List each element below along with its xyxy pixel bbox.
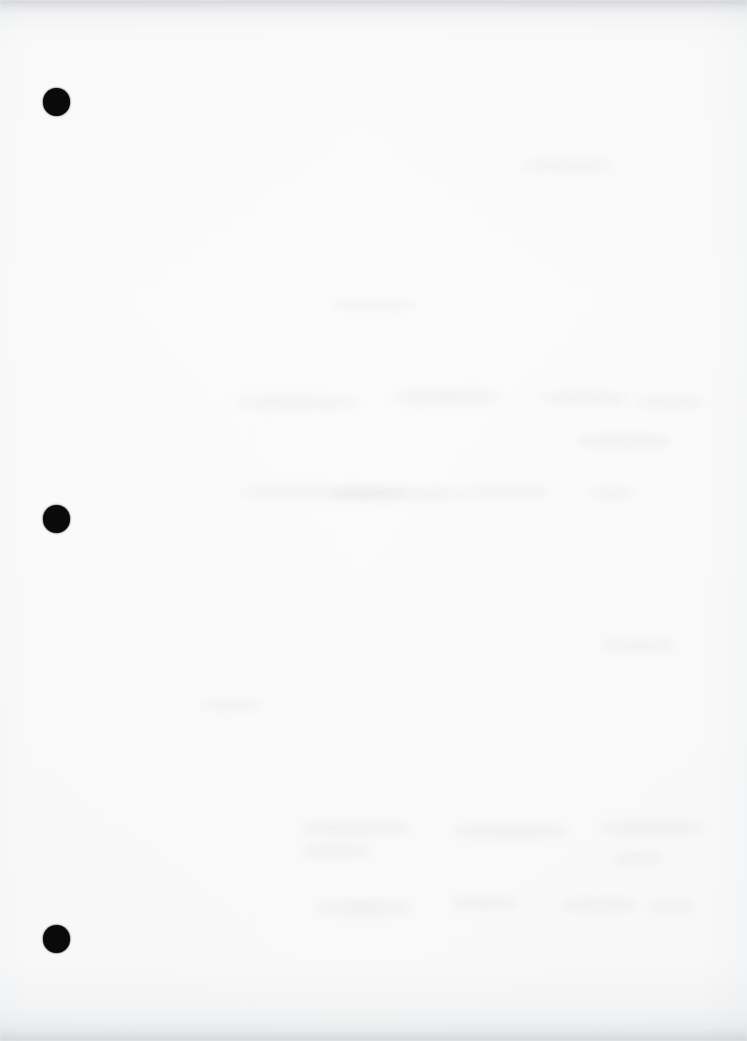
ghost-smudge [452, 824, 570, 839]
bottom-edge-scan-shadow [0, 1007, 747, 1041]
bottom-punch-hole [43, 925, 71, 953]
top-edge-scan-shadow [0, 0, 747, 26]
middle-punch-hole [43, 505, 71, 533]
ghost-smudge [236, 396, 360, 409]
ghost-smudge [316, 900, 412, 916]
ghost-smudge [330, 300, 416, 310]
scanned-page [0, 0, 747, 1041]
ghost-smudge [200, 700, 264, 710]
ghost-smudge [636, 396, 704, 408]
ghost-smudge [330, 488, 472, 500]
ghost-smudge [600, 820, 704, 836]
ghost-smudge [300, 844, 372, 858]
ghost-smudge [238, 486, 406, 499]
ghost-smudge [600, 640, 676, 651]
ghost-smudge [612, 852, 664, 865]
ghost-smudge [452, 896, 518, 910]
ghost-smudge [300, 820, 410, 836]
ghost-smudge [520, 160, 616, 171]
ghost-smudge [576, 434, 672, 448]
ghost-smudge [560, 898, 638, 912]
ghost-smudge [392, 390, 500, 405]
top-punch-hole [43, 88, 71, 116]
ghost-smudge [470, 486, 550, 498]
ghost-smudge [648, 900, 696, 913]
ghost-smudge [540, 392, 628, 405]
ghost-smudge [590, 488, 634, 499]
